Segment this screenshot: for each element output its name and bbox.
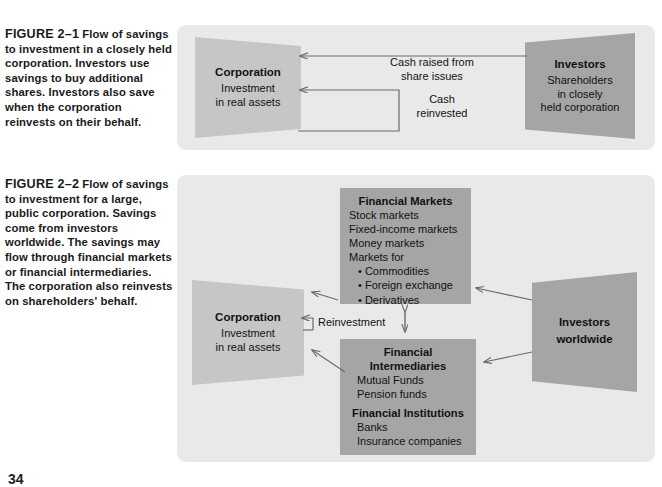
figure-2-corporation-shape: Corporation Investment in real assets	[192, 280, 304, 385]
figure-2-investors-line-2: worldwide	[556, 332, 612, 346]
figure-1-label: FIGURE 2–1	[5, 27, 79, 41]
figure-1-cash-raised-line-1: Cash raised from	[352, 56, 512, 70]
financial-institutions-heading: Financial Institutions	[349, 406, 467, 420]
figure-1-cash-reinvested-label: Cash reinvested	[392, 93, 492, 120]
financial-institutions-item: Banks	[349, 420, 467, 434]
figure-1-investors-line-2: in closely	[557, 88, 602, 102]
figure-2-investors-line-1: Investors	[559, 315, 610, 329]
financial-markets-bullet: • Foreign exchange	[349, 278, 462, 292]
figure-1-investors-title: Investors	[554, 57, 605, 71]
financial-markets-item: Stock markets	[349, 208, 462, 222]
figure-1-investors-shape: Investors Shareholders in closely held c…	[525, 33, 635, 139]
figure-2-corporation-line-2: in real assets	[216, 341, 281, 355]
figure-1-caption-text: Flow of savings to investment in a close…	[5, 28, 172, 128]
figure-2-corporation-title: Corporation	[215, 310, 281, 324]
figure-1-corporation-shape: Corporation Investment in real assets	[195, 37, 301, 138]
figure-1-corporation-line-1: Investment	[221, 82, 275, 96]
figure-1-cash-reinvested-line-1: Cash	[392, 93, 492, 107]
figure-1-cash-raised-label: Cash raised from share issues	[352, 56, 512, 83]
financial-markets-heading: Financial Markets	[349, 194, 462, 208]
financial-markets-item: Fixed-income markets	[349, 222, 462, 236]
financial-intermediaries-heading-line-1: Financial	[349, 345, 467, 359]
financial-intermediaries-item: Mutual Funds	[349, 373, 467, 387]
figure-1-investors-line-1: Shareholders	[547, 74, 612, 88]
figure-2-corporation-line-1: Investment	[221, 327, 275, 341]
financial-markets-item: Money markets	[349, 236, 462, 250]
financial-institutions-item: Insurance companies	[349, 434, 467, 448]
financial-markets-box: Financial Markets Stock markets Fixed-in…	[340, 188, 471, 304]
figure-1-corporation-line-2: in real assets	[216, 96, 281, 110]
financial-markets-item: Markets for	[349, 250, 462, 264]
financial-markets-bullet: • Commodities	[349, 264, 462, 278]
financial-markets-bullet: • Derivatives	[349, 293, 462, 307]
figure-1-cash-raised-line-2: share issues	[352, 70, 512, 84]
figure-1-caption: FIGURE 2–1 Flow of savings to investment…	[5, 27, 173, 129]
financial-intermediaries-box: Financial Intermediaries Mutual Funds Pe…	[340, 339, 476, 455]
figure-2-caption: FIGURE 2–2 Flow of savings to investment…	[5, 177, 173, 308]
figure-1-investors-line-3: held corporation	[541, 101, 620, 115]
figure-2-caption-text: Flow of savings to investment for a larg…	[5, 178, 172, 307]
figure-1-cash-reinvested-line-2: reinvested	[392, 107, 492, 121]
figure-2-investors-shape: Investors worldwide	[532, 272, 637, 392]
page-number: 34	[8, 471, 24, 487]
figure-2-label: FIGURE 2–2	[5, 177, 79, 191]
financial-intermediaries-item: Pension funds	[349, 387, 467, 401]
figure-2-reinvestment-label: Reinvestment	[318, 316, 428, 330]
figure-1-corporation-title: Corporation	[215, 65, 281, 79]
financial-intermediaries-heading-line-2: Intermediaries	[349, 359, 467, 373]
